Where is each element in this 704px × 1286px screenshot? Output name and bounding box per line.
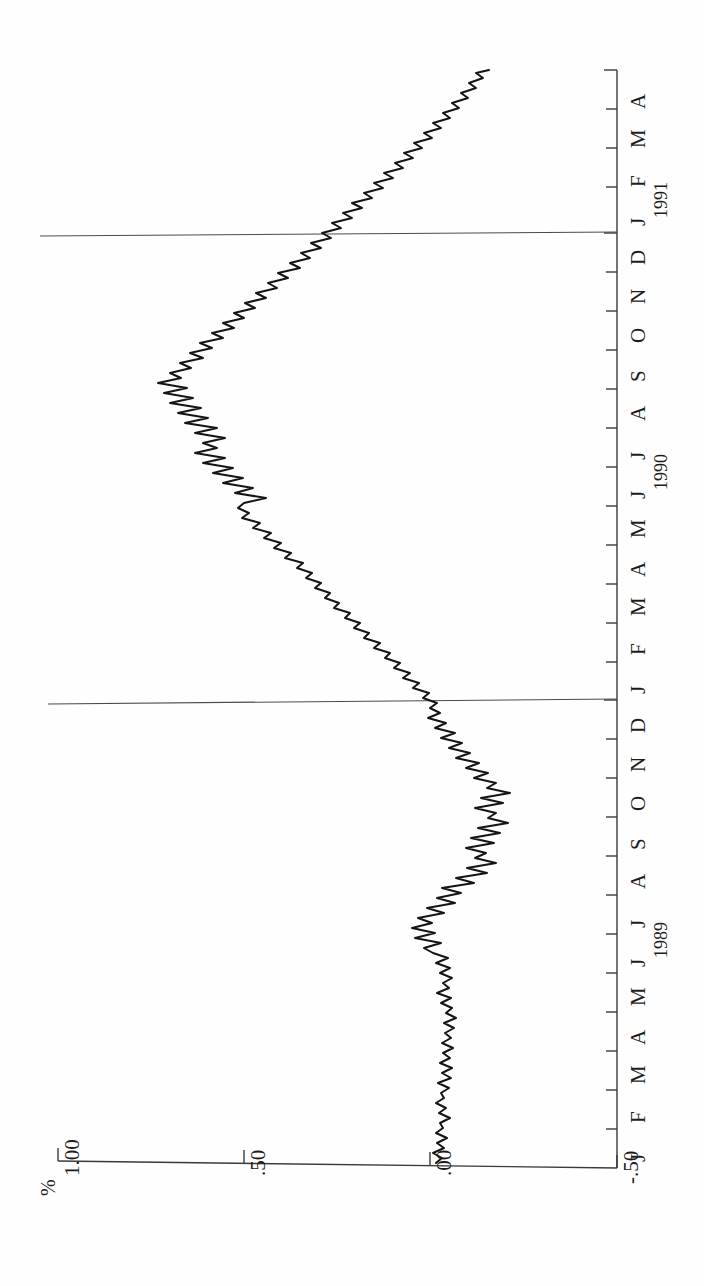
time-month-label-24: J <box>626 218 651 226</box>
time-month-label-26: M <box>626 129 651 148</box>
time-month-label-1: F <box>626 1111 651 1123</box>
unit-label-percent: % <box>38 1179 58 1196</box>
time-month-label-16: M <box>626 519 651 538</box>
time-month-label-18: J <box>626 452 651 460</box>
time-month-label-14: M <box>626 597 651 616</box>
line-chart <box>0 0 704 1286</box>
time-month-label-2: M <box>626 1065 651 1084</box>
time-month-label-15: A <box>626 562 651 577</box>
figure-page: 1.00 .50 .00 -.50 % J F M A M J J A S O … <box>0 0 704 1286</box>
time-year-label-1991: 1991 <box>652 182 670 218</box>
time-month-label-22: N <box>626 289 651 304</box>
time-month-label-3: A <box>626 1030 651 1045</box>
time-year-label-1989: 1989 <box>652 922 670 958</box>
time-month-label-25: F <box>626 175 651 187</box>
time-month-label-8: S <box>626 838 651 850</box>
time-month-label-20: S <box>626 370 651 382</box>
time-month-label-13: F <box>626 643 651 655</box>
time-month-label-12: J <box>626 686 651 694</box>
reference-line-jan-1990 <box>48 699 617 704</box>
time-month-label-5: J <box>626 959 651 967</box>
time-year-label-1990: 1990 <box>652 454 670 490</box>
time-month-label-4: M <box>626 987 651 1006</box>
value-tick-label-1-00: 1.00 <box>62 1139 83 1176</box>
time-month-label-11: D <box>626 718 651 733</box>
time-month-label-9: O <box>626 796 651 811</box>
time-month-label-6: J <box>626 920 651 928</box>
time-month-label-0: J <box>626 1154 651 1162</box>
reference-line-jan-1991 <box>40 232 617 236</box>
time-month-label-27: A <box>626 94 651 109</box>
time-month-label-23: D <box>626 250 651 265</box>
time-month-label-21: O <box>626 328 651 343</box>
value-tick-label-0-00: .00 <box>434 1150 455 1176</box>
time-month-label-10: N <box>626 757 651 772</box>
value-tick-label-0-50: .50 <box>248 1150 269 1176</box>
time-month-label-17: J <box>626 491 651 499</box>
time-month-label-19: A <box>626 406 651 421</box>
time-axis-spine <box>604 70 617 1168</box>
value-axis-spine <box>58 1148 617 1168</box>
time-month-label-7: A <box>626 874 651 889</box>
